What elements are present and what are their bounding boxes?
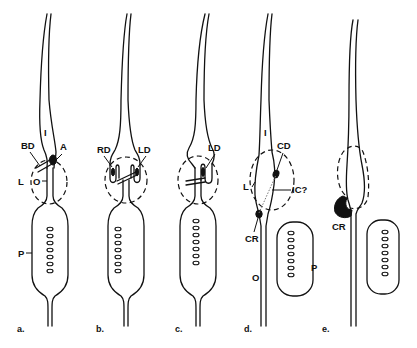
panel-a-label-p: P	[18, 248, 25, 259]
panel-c-caption: c.	[175, 324, 183, 334]
panel-a-upper-tube-right	[49, 14, 56, 168]
panel-d-ic-dotted-line	[259, 175, 276, 213]
panel-c: LD c.	[175, 14, 221, 334]
panel-e-tube-right	[356, 20, 365, 326]
panel-c-ld-blob	[201, 168, 204, 177]
panel-b-egg-column	[115, 227, 121, 273]
panel-b-caption: b.	[96, 324, 104, 334]
panel-a-label-a: A	[60, 141, 67, 152]
panel-d-label-p: P	[311, 262, 318, 273]
panel-c-egg-column	[193, 219, 199, 265]
panel-b-upper-tube-left	[110, 14, 127, 165]
panel-a-label-bd: BD	[21, 140, 35, 151]
panel-d-cr-blob	[256, 210, 262, 218]
panel-a-neck-left	[32, 168, 48, 326]
panel-d-label-l: L	[243, 181, 249, 192]
panel-b-upper-tube-right	[128, 14, 140, 165]
panel-a: I BD A L O P a.	[17, 14, 68, 334]
panel-e: CR e.	[322, 20, 399, 334]
panel-d-label-i: I	[264, 127, 267, 138]
panel-c-lower-left	[180, 168, 196, 326]
panel-e-caption: e.	[322, 324, 330, 334]
panel-b-rd-blob	[112, 168, 115, 176]
panel-d-label-ic: IC?	[292, 184, 308, 195]
panel-c-label-ld: LD	[208, 142, 221, 153]
panel-a-structure-a-blob	[50, 155, 57, 165]
panel-e-label-cr: CR	[332, 221, 346, 232]
panel-c-lower-right	[200, 180, 216, 326]
panel-d-label-o: O	[252, 272, 259, 283]
panel-d-cr-leader	[254, 218, 258, 232]
panel-d-caption: d.	[244, 324, 252, 334]
panel-a-label-i: I	[44, 127, 47, 138]
panel-a-caption: a.	[17, 324, 25, 334]
panel-c-upper-tube-left	[187, 14, 205, 168]
panel-a-bd-leader	[30, 152, 40, 166]
panel-d-label-cr: CR	[245, 233, 259, 244]
panel-b: RD LD b.	[96, 14, 151, 334]
panel-d-cd-blob	[272, 169, 280, 178]
panel-d-p-body	[277, 222, 313, 296]
panel-a-label-o: O	[33, 176, 40, 187]
panel-e-tube-left	[346, 20, 353, 326]
panel-e-egg-column	[382, 230, 388, 276]
panel-b-lower-left	[108, 180, 124, 326]
panel-a-a-leader	[56, 154, 62, 160]
panel-d-label-cd: CD	[277, 140, 291, 151]
panel-d-egg-column	[288, 231, 294, 277]
panel-a-egg-column	[47, 227, 53, 273]
panel-d: I CD L IC? CR O P d.	[243, 14, 318, 334]
panel-b-label-ld: LD	[138, 144, 151, 155]
panel-a-label-l: L	[18, 176, 24, 187]
panel-a-upper-tube-left	[40, 14, 48, 168]
figure-diagram: I BD A L O P a. RD	[0, 0, 417, 348]
panel-d-cd-leader	[277, 153, 283, 170]
panel-d-tube-right	[266, 14, 275, 326]
panel-b-label-rd: RD	[97, 144, 111, 155]
